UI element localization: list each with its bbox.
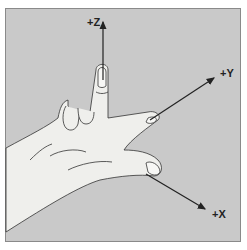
right-hand-rule-diagram: +Z +Y +X [0, 0, 247, 250]
svg-text:+Y: +Y [220, 67, 234, 79]
svg-text:+X: +X [212, 208, 226, 220]
hand-illustration [6, 64, 161, 232]
axis-y: +Y [150, 67, 234, 120]
svg-text:+Z: +Z [87, 16, 100, 28]
axis-x: +X [146, 174, 226, 220]
